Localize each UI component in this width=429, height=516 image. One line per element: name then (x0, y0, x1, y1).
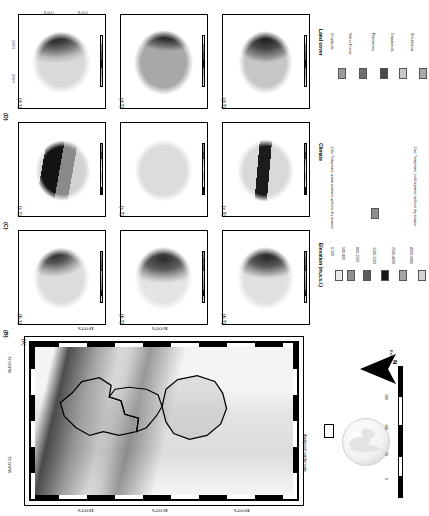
tick-band-left (31, 343, 35, 499)
panel-c2[interactable]: (c.2) (120, 122, 208, 217)
coord-lat-33-right: 33°0'0"S (78, 508, 94, 513)
legend-swatch (335, 270, 343, 281)
catchment-boundaries (31, 343, 297, 499)
panel-d3-raster (228, 20, 303, 102)
legend-landcover-item[interactable]: Shrublands (414, 22, 429, 79)
legend-swatch (380, 68, 388, 79)
scale-bar-segments (398, 366, 408, 498)
legend-elevation-item[interactable]: 4000-6900 (413, 236, 429, 281)
panel-b2-label: (b.2) (125, 314, 135, 320)
globe-inset (342, 418, 390, 466)
legend-swatch (418, 270, 426, 281)
panel-axis-lon: 70°0'0"W (78, 10, 88, 13)
panel-c1-label: (c.1) (23, 206, 33, 212)
panel-c2-raster (126, 128, 201, 210)
legend-swatch (363, 270, 371, 281)
tick-band-bottom (31, 495, 297, 499)
main-map-label: (A) (27, 339, 34, 345)
tick-band-top (31, 343, 297, 347)
panel-b1-colorbar (100, 251, 103, 303)
legend-climate-item[interactable]: Csc: Temperate, cold summer, without dry… (417, 136, 429, 219)
row-group-label-b: (B) (9, 330, 17, 336)
panel-b3-label: (b.3) (227, 314, 237, 320)
legend-swatch (359, 68, 367, 79)
panel-d1[interactable]: (d.1) (18, 14, 106, 109)
panel-d3-label: (d.3) (227, 98, 237, 104)
panel-c2-label: (c.2) (125, 206, 135, 212)
panel-b2-colorbar (202, 251, 205, 303)
panel-d3[interactable]: (d.3) (222, 14, 310, 109)
panel-b1-raster (24, 236, 99, 318)
scale-tick-280: 280 (388, 394, 394, 398)
panel-d2-label: (d.2) (125, 98, 135, 104)
coord-lat-36-left: 36°0'0"S (152, 326, 168, 331)
panel-d3-colorbar (304, 35, 307, 87)
row-group-label-d: (D) (9, 113, 17, 119)
row-group-label-c: (C) (9, 222, 17, 228)
scale-tick-140: 140 (388, 424, 394, 428)
legend-swatch (419, 68, 427, 79)
coord-lon-72-top: 72°0'0"W (12, 356, 29, 361)
panel-b1[interactable]: (b.1) (18, 230, 106, 325)
main-map-frame (29, 341, 299, 501)
scale-bar-unit: Km (394, 350, 400, 355)
scale-tick-0: 0 (388, 478, 390, 482)
legend-climate-item[interactable]: Csb: Temperate, warm summer, without dry… (334, 136, 416, 219)
legend-swatch (381, 270, 389, 281)
panel-b1-label: (b.1) (23, 314, 33, 320)
legend-swatch (338, 68, 346, 79)
panel-c3-label: (c.3) (227, 206, 237, 212)
panel-b3[interactable]: (b.3) (222, 230, 310, 325)
panel-c3-raster (228, 128, 303, 210)
legend-elevation: Elevation (m.a.s.l.) 0-500 500-800 800-1… (322, 228, 426, 324)
catchment-swatch (324, 424, 334, 438)
panel-c1[interactable]: (c.1) (18, 122, 106, 217)
scale-bar: Km (394, 350, 400, 357)
coord-lat-33-left: 33°0'0"S (78, 326, 94, 331)
panel-c1-raster (24, 128, 99, 210)
panel-axis-lon: 71°0'0"W (44, 10, 54, 13)
coord-lon-72-bottom: 72°0'0"W (12, 456, 29, 461)
panel-d2-raster (126, 20, 201, 102)
panel-d1-colorbar (100, 35, 103, 87)
legend-swatch (399, 270, 407, 281)
coord-lat-39: 39°0'0"S (234, 508, 250, 513)
scale-tick-70: 70 (388, 452, 392, 456)
main-map-panel[interactable]: (A) (24, 336, 304, 506)
panel-d1-label: (d.1) (23, 98, 33, 104)
panel-c2-colorbar (202, 143, 205, 195)
panel-d1-raster (24, 20, 99, 102)
panel-b2[interactable]: (b.2) (120, 230, 208, 325)
legend-swatch (399, 68, 407, 79)
panel-axis-lat: 32°0'0"S (14, 74, 23, 77)
panel-b3-colorbar (304, 251, 307, 303)
panel-axis-lat: 31°0'0"S (14, 40, 23, 43)
panel-b3-raster (228, 236, 303, 318)
panel-c3[interactable]: (c.3) (222, 122, 310, 217)
panel-b2-raster (126, 236, 201, 318)
map-legend-catchments[interactable]: Analysed catchments (308, 424, 334, 442)
panel-c3-colorbar (304, 143, 307, 195)
tick-band-right (293, 343, 297, 499)
legend-swatch (347, 270, 355, 281)
panel-d2[interactable]: (d.2) (120, 14, 208, 109)
legend-climate: Climate Csb: Temperate, warm summer, wit… (322, 128, 426, 224)
panel-c1-colorbar (100, 143, 103, 195)
legend-swatch (371, 208, 379, 219)
coord-lat-36-right: 36°0'0"S (152, 508, 168, 513)
panel-d2-colorbar (202, 35, 205, 87)
legend-landcover: Land cover Croplands Native Forest Plant… (322, 14, 426, 124)
scale-tick-420: 420 (388, 364, 394, 368)
figure-canvas: (D) (d.1) (d.2) (d.3) (0, 0, 429, 516)
